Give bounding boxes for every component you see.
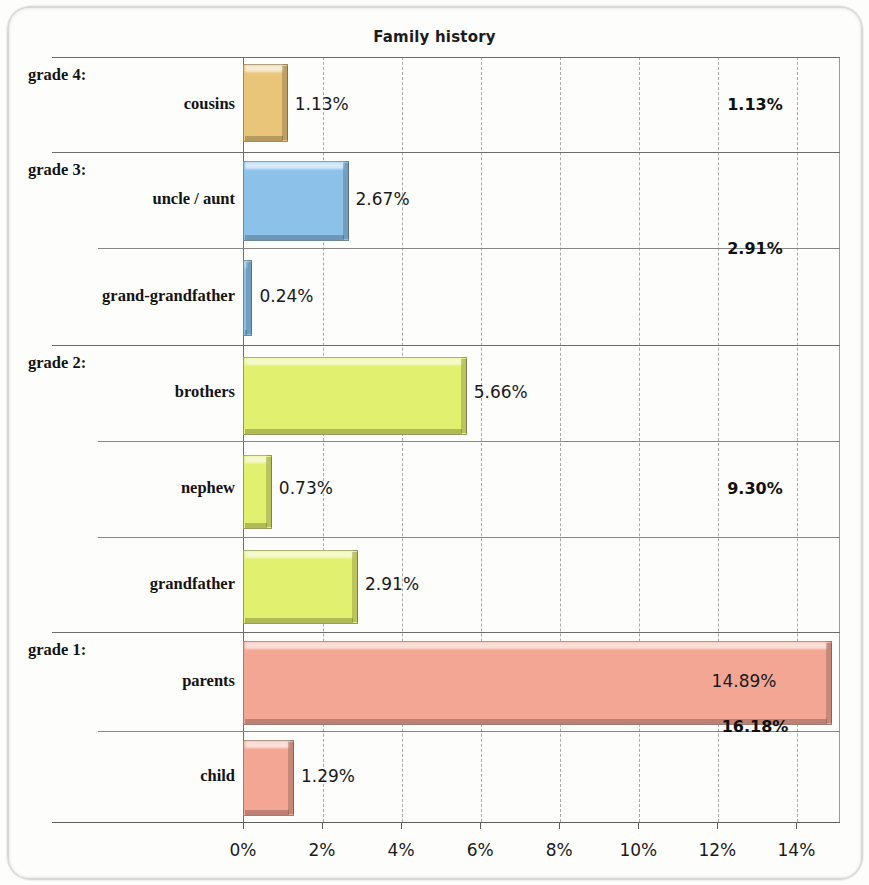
group-total-1: 1.13% xyxy=(695,95,815,114)
bar-right-shadow xyxy=(246,262,252,334)
bar-right-shadow xyxy=(343,163,349,239)
bar-right-shadow xyxy=(826,643,832,723)
value-label-uncle-aunt: 2.67% xyxy=(356,189,410,209)
x-tick-4% xyxy=(401,822,402,829)
value-label-parents: 14.89% xyxy=(712,671,777,691)
value-label-cousins: 1.13% xyxy=(295,94,349,114)
category-label-nephew: nephew xyxy=(181,478,235,498)
bar-bottom-shadow xyxy=(245,235,344,240)
x-tick-label-12%: 12% xyxy=(698,840,736,860)
bar-cousins xyxy=(243,64,288,142)
x-tick-label-6%: 6% xyxy=(467,840,494,860)
bar-right-shadow xyxy=(266,457,272,527)
x-tick-2% xyxy=(322,822,323,829)
value-label-grandfather: 2.91% xyxy=(365,574,419,594)
x-tick-label-4%: 4% xyxy=(388,840,415,860)
x-tick-label-2%: 2% xyxy=(309,840,336,860)
grade-label-4: grade 1: xyxy=(28,640,86,660)
grade-label-1: grade 4: xyxy=(28,65,86,85)
bar-face xyxy=(243,550,358,624)
x-tick-14% xyxy=(796,822,797,829)
bar-child xyxy=(243,740,294,816)
group-divider-3 xyxy=(52,345,840,346)
bar-top-highlight xyxy=(245,358,462,365)
bar-uncle-aunt xyxy=(243,161,349,241)
bar-nephew xyxy=(243,455,272,529)
bar-bottom-shadow xyxy=(245,429,462,434)
category-label-cousins: cousins xyxy=(184,94,235,114)
category-label-grand-grandfather: grand-grandfather xyxy=(102,286,235,306)
bar-top-highlight xyxy=(245,642,827,649)
chart-container: Family history grade 4:cousins1.13%grade… xyxy=(0,0,869,885)
bar-grandfather xyxy=(243,550,358,624)
x-tick-0% xyxy=(243,822,244,829)
group-divider-1 xyxy=(52,57,840,58)
bar-right-shadow xyxy=(282,66,288,140)
category-label-child: child xyxy=(200,766,235,786)
chart-title: Family history xyxy=(0,28,869,46)
bar-right-shadow xyxy=(288,742,294,814)
bar-right-shadow xyxy=(461,359,467,433)
bar-top-highlight xyxy=(245,456,267,463)
bar-bottom-shadow xyxy=(245,810,289,815)
value-label-grand-grandfather: 0.24% xyxy=(259,286,313,306)
x-tick-label-14%: 14% xyxy=(778,840,816,860)
group-divider-4 xyxy=(52,632,840,633)
value-label-child: 1.29% xyxy=(301,766,355,786)
bar-bottom-shadow xyxy=(245,618,353,623)
group-total-2: 2.91% xyxy=(695,239,815,258)
category-label-parents: parents xyxy=(182,671,235,691)
bar-face xyxy=(243,161,349,241)
x-tick-label-10%: 10% xyxy=(619,840,657,860)
bar-top-highlight xyxy=(245,65,283,72)
bar-grand-grandfather xyxy=(243,260,252,336)
category-label-uncle-aunt: uncle / aunt xyxy=(152,189,235,209)
group-divider-2 xyxy=(52,152,840,153)
x-axis-line xyxy=(52,822,840,823)
bar-face xyxy=(243,740,294,816)
x-tick-10% xyxy=(638,822,639,829)
bar-top-highlight xyxy=(245,162,344,169)
x-tick-12% xyxy=(717,822,718,829)
bar-right-shadow xyxy=(352,552,358,622)
x-tick-label-0%: 0% xyxy=(230,840,257,860)
grade-label-2: grade 3: xyxy=(28,160,86,180)
x-tick-label-8%: 8% xyxy=(546,840,573,860)
bar-bottom-shadow xyxy=(245,523,267,528)
value-label-nephew: 0.73% xyxy=(279,478,333,498)
bar-brothers xyxy=(243,357,467,435)
category-label-grandfather: grandfather xyxy=(150,574,235,594)
x-tick-8% xyxy=(559,822,560,829)
bar-top-highlight xyxy=(245,741,289,748)
bar-top-highlight xyxy=(245,551,353,558)
bar-bottom-shadow xyxy=(245,136,283,141)
grade-label-3: grade 2: xyxy=(28,353,86,373)
group-total-4: 16.18% xyxy=(695,717,815,736)
row-divider-6 xyxy=(98,537,840,538)
group-total-3: 9.30% xyxy=(695,479,815,498)
category-label-brothers: brothers xyxy=(175,382,235,402)
row-divider-5 xyxy=(98,441,840,442)
value-label-brothers: 5.66% xyxy=(474,382,528,402)
bar-face xyxy=(243,357,467,435)
x-tick-6% xyxy=(480,822,481,829)
